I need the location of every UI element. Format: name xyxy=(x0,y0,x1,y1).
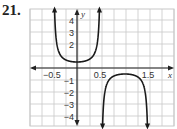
secant-graph: yx−0.50.51.5432−1−2−3−4 xyxy=(0,0,177,129)
x-tick-label: 0.5 xyxy=(94,70,107,80)
x-tick-label: 1.5 xyxy=(142,70,155,80)
x-axis-left-arrow-icon xyxy=(30,66,36,71)
y-axis-label: y xyxy=(80,9,85,19)
tick-labels: yx−0.50.51.5432−1−2−3−4 xyxy=(43,9,172,122)
lower-branch-curve xyxy=(103,74,148,126)
y-tick-label: 2 xyxy=(69,40,74,50)
y-tick-label: −4 xyxy=(64,112,74,122)
y-axis-down-arrow-icon xyxy=(75,120,80,126)
y-tick-label: −1 xyxy=(64,76,74,86)
x-tick-label: −0.5 xyxy=(43,70,61,80)
curve-arrow-icon xyxy=(97,7,102,13)
y-tick-label: 4 xyxy=(69,16,74,26)
y-axis-up-arrow-icon xyxy=(75,9,80,15)
y-tick-label: 3 xyxy=(69,28,74,38)
curve-arrow-icon xyxy=(52,7,57,13)
x-axis-label: x xyxy=(167,70,172,80)
y-tick-label: −2 xyxy=(64,88,74,98)
y-tick-label: −3 xyxy=(64,100,74,110)
